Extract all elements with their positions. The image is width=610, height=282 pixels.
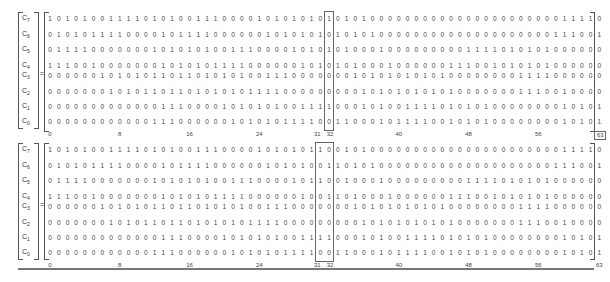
matrix-cell: 1 xyxy=(247,249,255,256)
matrix-cell: 0 xyxy=(212,203,220,210)
matrix-cell: 0 xyxy=(552,203,560,210)
matrix-cell: 0 xyxy=(255,177,263,184)
matrix-cell: 1 xyxy=(264,249,272,256)
matrix-cell: 0 xyxy=(247,146,255,153)
matrix-cell: 0 xyxy=(46,219,54,226)
matrix-cell: 0 xyxy=(273,162,281,169)
matrix-cell: 0 xyxy=(334,234,342,241)
matrix-cell: 0 xyxy=(377,193,385,200)
matrix-cell: 0 xyxy=(133,219,141,226)
matrix-cell: 0 xyxy=(552,146,560,153)
matrix-cell: 0 xyxy=(133,249,141,256)
matrix-cell: 1 xyxy=(438,203,446,210)
matrix-cell: 1 xyxy=(124,219,132,226)
matrix-cell: 0 xyxy=(508,162,516,169)
matrix-cell: 0 xyxy=(116,177,124,184)
matrix-cell: 1 xyxy=(72,162,80,169)
matrix-cell: 0 xyxy=(72,234,80,241)
matrix-cell: 0 xyxy=(377,162,385,169)
matrix-cell: 0 xyxy=(508,146,516,153)
matrix-cell: 0 xyxy=(369,146,377,153)
matrix-cell: 0 xyxy=(526,234,534,241)
matrix-cell: 0 xyxy=(369,219,377,226)
matrix-cell: 0 xyxy=(220,146,228,153)
matrix-cell: 0 xyxy=(543,219,551,226)
matrix-cell: 1 xyxy=(151,177,159,184)
matrix-cell: 1 xyxy=(212,193,220,200)
matrix-cell: 0 xyxy=(81,162,89,169)
matrix-cell: 0 xyxy=(377,146,385,153)
matrix-cell: 0 xyxy=(351,234,359,241)
matrix-cell: 0 xyxy=(342,219,350,226)
matrix-cell: 0 xyxy=(386,219,394,226)
matrix-cell: 0 xyxy=(124,203,132,210)
matrix-cell: 1 xyxy=(168,234,176,241)
matrix-cell: 0 xyxy=(281,146,289,153)
matrix-cell: 1 xyxy=(159,203,167,210)
matrix-cell: 0 xyxy=(81,219,89,226)
matrix-cell: 0 xyxy=(203,219,211,226)
matrix-cell: 0 xyxy=(360,203,368,210)
matrix-cell: 0 xyxy=(55,146,63,153)
matrix-cell: 1 xyxy=(421,249,429,256)
matrix-cell: 1 xyxy=(569,162,577,169)
matrix-cell: 0 xyxy=(55,203,63,210)
matrix-cell: 0 xyxy=(72,193,80,200)
matrix-cell: 0 xyxy=(133,162,141,169)
matrix-cell: 0 xyxy=(90,146,98,153)
matrix-cell: 0 xyxy=(151,162,159,169)
matrix-cell: 0 xyxy=(499,177,507,184)
matrix-cell: 0 xyxy=(81,249,89,256)
bottom-matrix-cells: 1010100111101010011100001010101100101000… xyxy=(0,0,610,282)
matrix-cell: 1 xyxy=(526,177,534,184)
matrix-cell: 0 xyxy=(151,234,159,241)
matrix-cell: 1 xyxy=(220,203,228,210)
matrix-cell: 0 xyxy=(587,177,595,184)
matrix-cell: 0 xyxy=(72,219,80,226)
matrix-cell: 0 xyxy=(430,146,438,153)
matrix-cell: 1 xyxy=(55,162,63,169)
matrix-cell: 1 xyxy=(578,249,586,256)
matrix-cell: 0 xyxy=(595,203,603,210)
matrix-cell: 0 xyxy=(360,193,368,200)
matrix-cell: 0 xyxy=(46,234,54,241)
matrix-cell: 0 xyxy=(438,234,446,241)
matrix-cell: 1 xyxy=(98,203,106,210)
matrix-cell: 1 xyxy=(220,193,228,200)
matrix-cell: 1 xyxy=(203,146,211,153)
matrix-cell: 0 xyxy=(412,193,420,200)
matrix-cell: 1 xyxy=(63,193,71,200)
matrix-cell: 0 xyxy=(482,162,490,169)
matrix-cell: 0 xyxy=(81,203,89,210)
matrix-cell: 0 xyxy=(63,162,71,169)
matrix-cell: 0 xyxy=(447,177,455,184)
matrix-cell: 0 xyxy=(46,203,54,210)
matrix-cell: 0 xyxy=(430,193,438,200)
matrix-cell: 0 xyxy=(569,234,577,241)
matrix-cell: 0 xyxy=(342,203,350,210)
matrix-cell: 0 xyxy=(421,193,429,200)
matrix-cell: 1 xyxy=(159,162,167,169)
matrix-cell: 0 xyxy=(238,146,246,153)
matrix-cell: 0 xyxy=(299,219,307,226)
matrix-cell: 0 xyxy=(116,234,124,241)
matrix-cell: 0 xyxy=(430,162,438,169)
matrix-cell: 0 xyxy=(290,193,298,200)
matrix-cell: 0 xyxy=(168,193,176,200)
matrix-cell: 1 xyxy=(404,203,412,210)
matrix-cell: 0 xyxy=(587,193,595,200)
matrix-cell: 1 xyxy=(116,162,124,169)
matrix-cell: 0 xyxy=(177,146,185,153)
matrix-cell: 0 xyxy=(72,249,80,256)
matrix-cell: 1 xyxy=(194,146,202,153)
matrix-cell: 0 xyxy=(116,219,124,226)
matrix-cell: 1 xyxy=(273,146,281,153)
matrix-cell: 1 xyxy=(351,193,359,200)
matrix-cell: 1 xyxy=(264,203,272,210)
matrix-cell: 1 xyxy=(482,234,490,241)
matrix-cell: 0 xyxy=(72,146,80,153)
matrix-cell: 1 xyxy=(377,177,385,184)
matrix-cell: 0 xyxy=(587,162,595,169)
matrix-cell: 1 xyxy=(281,249,289,256)
matrix-cell: 1 xyxy=(247,177,255,184)
